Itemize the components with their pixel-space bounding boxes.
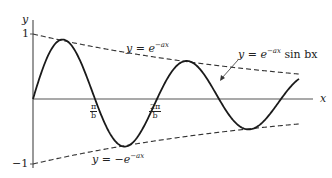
- upper-envelope-label: y = e−ax: [126, 42, 169, 54]
- y-tick-minus-1: −1: [12, 158, 28, 169]
- y-axis-label: y: [22, 14, 28, 25]
- x-tick-2pi-over-b: 2π b: [149, 103, 161, 120]
- x-tick-pi-over-b: π b: [90, 103, 97, 120]
- damped-sine-diagram: [0, 0, 332, 178]
- y-tick-1: 1: [22, 28, 29, 39]
- x-axis-label: x: [320, 93, 326, 104]
- label-pointer-arrow: [222, 60, 238, 78]
- lower-envelope-label: y = −e−ax: [92, 153, 144, 165]
- lower-envelope-curve: [33, 124, 301, 164]
- main-curve-label: y = e−ax sin bx: [238, 48, 317, 60]
